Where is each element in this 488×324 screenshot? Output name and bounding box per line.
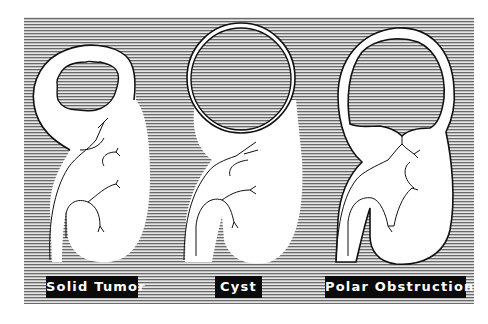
dilated-upper-calyx xyxy=(348,39,444,136)
cyst-inner xyxy=(191,28,291,130)
label-solid-tumor: Solid Tumor xyxy=(46,276,138,298)
kidney-cyst xyxy=(184,23,302,264)
label-cyst: Cyst xyxy=(215,276,262,298)
label-polar-obstruction: Polar Obstruction xyxy=(325,276,466,298)
tumor-mass xyxy=(57,61,119,111)
kidney-polar-obstruction xyxy=(336,28,454,264)
